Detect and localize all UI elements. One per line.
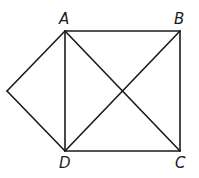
geometry-diagram: A B C D [0, 0, 199, 178]
label-d: D [59, 154, 71, 172]
edge-ed [7, 91, 65, 151]
label-a: A [58, 10, 69, 28]
label-c: C [175, 154, 186, 172]
edges [7, 31, 180, 151]
label-b: B [174, 10, 184, 28]
edge-ea [7, 31, 65, 91]
